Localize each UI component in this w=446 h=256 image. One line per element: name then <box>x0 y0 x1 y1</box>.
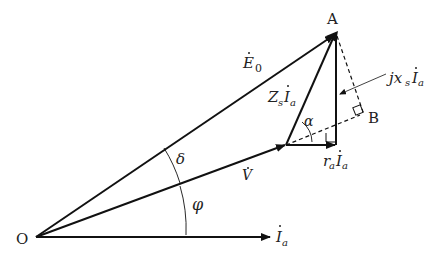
svg-text:s: s <box>405 77 410 88</box>
svg-text:a: a <box>418 77 424 88</box>
dashed-a-b <box>337 36 363 112</box>
label-delta: δ <box>176 150 185 168</box>
label-a: A <box>326 10 338 28</box>
label-ra-ia: r a I a <box>323 150 348 171</box>
svg-text:0: 0 <box>255 62 262 75</box>
svg-text:E: E <box>242 54 254 72</box>
label-alpha: α <box>304 113 314 129</box>
svg-text:a: a <box>329 160 335 171</box>
right-angle-marker-b <box>353 105 363 115</box>
phasor-diagram: O A B E 0 V I a Z s I a r a I a jx s I a… <box>0 0 446 256</box>
svg-text:a: a <box>282 237 288 248</box>
label-b: B <box>368 109 379 127</box>
diagram-svg: O A B E 0 V I a Z s I a r a I a jx s I a… <box>0 0 446 256</box>
svg-text:a: a <box>290 97 296 108</box>
label-ia: I a <box>275 225 288 248</box>
jxs-leader <box>340 74 386 94</box>
phi-arc <box>180 186 186 235</box>
right-angle-marker <box>326 133 336 142</box>
label-zs-ia: Z s I a <box>267 85 296 108</box>
label-jxs-ia: jx s I a <box>386 67 424 88</box>
svg-text:a: a <box>342 160 348 171</box>
svg-text:V: V <box>242 167 254 183</box>
svg-text:s: s <box>278 97 283 108</box>
label-v: V <box>242 167 254 183</box>
label-phi: φ <box>192 195 204 214</box>
label-o: O <box>16 230 28 248</box>
svg-text:jx: jx <box>386 69 403 87</box>
label-e0: E 0 <box>242 52 262 75</box>
v-phasor <box>36 145 285 237</box>
